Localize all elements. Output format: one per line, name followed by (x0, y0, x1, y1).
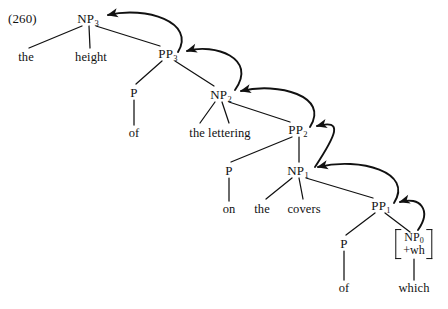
bracket-left (395, 229, 401, 259)
node-pp2: PP2 (288, 123, 307, 136)
feature-matrix-np0: NP0+wh (395, 229, 432, 259)
node-category: PP (288, 122, 303, 137)
tree-branch-pp2-to-p (231, 137, 292, 162)
node-p-of1: P (130, 86, 137, 99)
node-category: NP (287, 163, 304, 178)
arrow-np0-to-pp1 (400, 201, 424, 230)
node-np2: NP2 (210, 88, 231, 101)
tree-branch-np2-to-pp2 (229, 102, 290, 122)
tree-branch-np3-to-the (29, 26, 82, 48)
feature-category: NP0 (404, 231, 423, 244)
tree-branch-pp3-to-np2 (175, 61, 214, 86)
node-index: 2 (227, 93, 232, 103)
node-index: 1 (304, 169, 309, 179)
terminal-the-lettering: the lettering (189, 127, 250, 140)
node-np1: NP1 (287, 164, 308, 177)
terminal-the-2: the (254, 203, 270, 216)
node-index: 2 (303, 128, 308, 138)
node-category: P (225, 163, 232, 178)
node-category: P (130, 85, 137, 100)
node-p-of2: P (340, 237, 347, 250)
tree-branch-np3-to-height (89, 26, 90, 48)
node-category: P (340, 236, 347, 251)
tree-branch-pp3-to-p (136, 61, 162, 84)
terminal-the-1: the (18, 51, 34, 64)
node-np3: NP3 (77, 12, 98, 25)
terminal-of-1: of (129, 127, 140, 140)
terminal-on: on (223, 203, 236, 216)
arrow-pp2-to-np2 (241, 88, 314, 127)
tree-branch-np3-to-pp3 (96, 26, 160, 46)
tree-branch-np1-to-the2 (266, 178, 292, 199)
node-index: 3 (94, 17, 99, 27)
node-category: NP (210, 87, 227, 102)
arrow-np1-to-pp2 (315, 124, 334, 167)
feature-wh: +wh (403, 244, 424, 257)
node-category: PP (158, 46, 173, 61)
bracket-right (427, 229, 433, 259)
node-p-on: P (225, 164, 232, 177)
tree-branch-np2-to-lettering (200, 102, 215, 123)
example-number: (260) (8, 12, 37, 25)
syntax-tree-figure: (260) NP3PP3NP2PP2NP1PP1PPPNP0+whtheheig… (0, 0, 448, 309)
tree-branch-np1-to-pp1 (306, 178, 373, 198)
feature-rows: NP0+wh (402, 229, 425, 259)
tree-lines-layer (0, 0, 448, 309)
terminal-height: height (75, 51, 107, 64)
tree-branch-pp1-to-p (346, 213, 375, 235)
node-index: 1 (386, 204, 391, 214)
node-category: PP (371, 198, 386, 213)
terminal-which: which (398, 282, 429, 295)
terminal-covers: covers (287, 203, 320, 216)
node-category: NP (77, 11, 94, 26)
node-pp3: PP3 (158, 47, 177, 60)
arrow-np2-to-pp3 (187, 49, 241, 90)
terminal-of-2: of (339, 282, 350, 295)
tree-branches (29, 26, 414, 280)
node-index: 3 (173, 52, 178, 62)
tree-branch-np2-to-lettering2 (222, 102, 229, 123)
node-pp1: PP1 (371, 199, 390, 212)
tree-branch-np1-to-covers (299, 178, 303, 199)
